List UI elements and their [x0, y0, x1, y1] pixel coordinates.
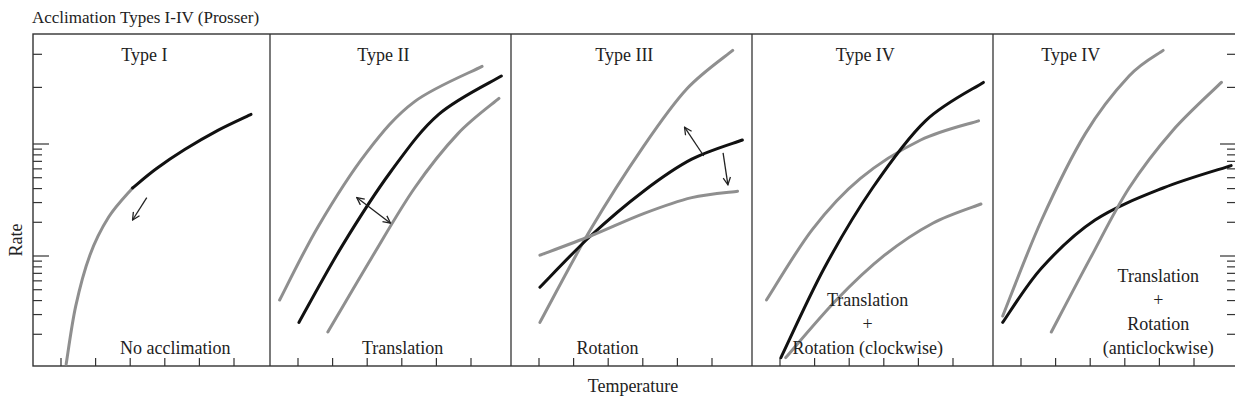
panel-label-line: (anticlockwise) — [1103, 338, 1214, 359]
curve-lower — [328, 98, 499, 332]
curve-steep — [540, 50, 733, 322]
arrow-bidirectional-icon — [357, 198, 391, 224]
curve-acclimated — [1003, 166, 1231, 323]
curve-upper — [766, 121, 978, 300]
panel-title: Type II — [357, 45, 409, 65]
figure-title: Acclimation Types I-IV (Prosser) — [32, 8, 259, 27]
panel-label-line: Translation — [362, 338, 443, 358]
curve-lower — [1051, 82, 1221, 332]
panel-label-line: + — [863, 314, 873, 334]
panel-label-line: Rotation — [1127, 314, 1189, 334]
panel-label-line: Rotation — [576, 338, 638, 358]
panel-label-line: Translation — [1118, 266, 1199, 286]
panel-label-line: + — [1153, 290, 1163, 310]
curve-shallow — [540, 191, 738, 255]
curve-acclimated — [133, 114, 252, 188]
panel-label-line: No acclimation — [120, 338, 230, 358]
panel-2: Type IITranslation — [280, 45, 502, 366]
panel-3: Type IIIRotation — [539, 45, 742, 366]
panel-4: Type IVTranslation+Rotation (clockwise) — [766, 45, 983, 366]
panel-title: Type I — [121, 45, 167, 65]
x-axis-label: Temperature — [588, 376, 679, 396]
panel-title: Type IV — [1041, 45, 1100, 65]
panel-title: Type III — [595, 45, 653, 65]
panel-title: Type IV — [836, 45, 895, 65]
panel-5: Type IVTranslation+Rotation(anticlockwis… — [1003, 45, 1231, 366]
curve-acclimated — [781, 82, 983, 357]
arrow-down-left-icon — [133, 198, 147, 220]
y-axis-label: Rate — [6, 224, 26, 257]
panel-label-line: Translation — [827, 290, 908, 310]
panel-label-line: Rotation (clockwise) — [792, 338, 942, 359]
arrow-down-icon — [723, 153, 728, 185]
acclimation-figure: Acclimation Types I-IV (Prosser) Rate Te… — [0, 0, 1235, 402]
panel-1: Type INo acclimation — [61, 45, 251, 366]
panels: Type INo acclimationType IITranslationTy… — [61, 34, 1231, 366]
arrow-up-left-icon — [685, 127, 704, 156]
